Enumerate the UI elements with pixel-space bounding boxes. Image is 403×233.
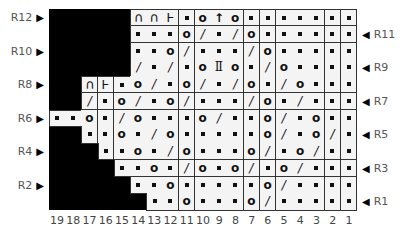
column-number-11: 11	[179, 214, 195, 227]
stitch-cell-r9-c3	[308, 59, 325, 76]
stitch-cell-r7-c4: /	[292, 93, 309, 110]
stitch-cell-r6-c4	[292, 110, 309, 127]
stitch-cell-r3-c8: o	[227, 160, 244, 177]
row-label-text: R5	[374, 128, 389, 141]
column-number-18: 18	[65, 214, 81, 227]
row-label-text: R4	[18, 145, 33, 158]
stitch-cell-r1-c12	[162, 193, 179, 210]
column-number-15: 15	[114, 214, 130, 227]
stitch-cell-r8-c13: /	[146, 76, 163, 93]
arrow-right-icon: ▶	[36, 180, 44, 191]
stitch-cell-r8-c16: Ⱶ	[98, 76, 115, 93]
stitch-cell-r4-c5	[276, 143, 293, 160]
stitch-cell-r4-c13	[146, 143, 163, 160]
column-number-8: 8	[227, 214, 243, 227]
stitch-cell-r12-c5	[276, 9, 293, 26]
stitch-cell-r6-c3: o	[308, 110, 325, 127]
row-label-text: R10	[11, 45, 33, 58]
stitch-cell-r9-c6: /	[260, 59, 277, 76]
stitch-cell-r7-c14: /	[130, 93, 147, 110]
stitch-cell-r7-c7: /	[244, 93, 261, 110]
stitch-cell-r3-c14	[130, 160, 147, 177]
stitch-cell-r7-c11: /	[179, 93, 196, 110]
stitch-cell-r12-c6	[260, 9, 277, 26]
stitch-cell-r5-c9	[211, 126, 228, 143]
stitch-cell-r7-c3	[308, 93, 325, 110]
stitch-cell-r6-c19	[49, 110, 66, 127]
stitch-cell-r10-c11: /	[179, 43, 196, 60]
stitch-cell-r4-c6: /	[260, 143, 277, 160]
stitch-cell-r8-c3	[308, 76, 325, 93]
stitch-cell-r2-c3	[308, 177, 325, 194]
column-number-7: 7	[244, 214, 260, 227]
knitting-chart-grid: ∩∩Ⱶo↑oo//oo//o//oⅡo/o∩Ⱶo/o//o/o/o/o//o/o…	[49, 9, 357, 210]
stitch-cell-r8-c5: /	[276, 76, 293, 93]
stitch-cell-r11-c9	[211, 26, 228, 43]
stitch-cell-r3-c13: o	[146, 160, 163, 177]
column-number-14: 14	[130, 214, 146, 227]
arrow-right-icon: ▶	[36, 12, 44, 23]
stitch-cell-r9-c1	[341, 59, 358, 76]
stitch-cell-r2-c8	[227, 177, 244, 194]
stitch-cell-r1-c13	[146, 193, 163, 210]
stitch-cell-r2-c12: o	[162, 177, 179, 194]
stitch-cell-r12-c3	[308, 9, 325, 26]
stitch-cell-r9-c8: o	[227, 59, 244, 76]
stitch-cell-r4-c9	[211, 143, 228, 160]
stitch-cell-r9-c12: /	[162, 59, 179, 76]
stitch-cell-r8-c11: o	[179, 76, 196, 93]
stitch-cell-r1-c9	[211, 193, 228, 210]
stitch-cell-r6-c2	[325, 110, 342, 127]
stitch-cell-r6-c7	[244, 110, 261, 127]
stitch-cell-r8-c15	[114, 76, 131, 93]
stitch-cell-r10-c10	[195, 43, 212, 60]
row-label-text: R11	[374, 28, 396, 41]
column-number-5: 5	[276, 214, 292, 227]
stitch-cell-r8-c2	[325, 76, 342, 93]
stitch-cell-r4-c4: o	[292, 143, 309, 160]
stitch-cell-r1-c8	[227, 193, 244, 210]
row-label-text: R2	[18, 179, 33, 192]
column-number-17: 17	[82, 214, 98, 227]
row-label-r9: ◀R9	[362, 59, 388, 76]
stitch-cell-r8-c12	[162, 76, 179, 93]
column-number-12: 12	[163, 214, 179, 227]
row-label-text: R7	[374, 95, 389, 108]
stitch-cell-r8-c9	[211, 76, 228, 93]
stitch-cell-r10-c9	[211, 43, 228, 60]
stitch-cell-r6-c13	[146, 110, 163, 127]
row-label-text: R12	[11, 11, 33, 24]
stitch-cell-r5-c11	[179, 126, 196, 143]
row-label-r7: ◀R7	[362, 93, 388, 110]
stitch-cell-r2-c6: o	[260, 177, 277, 194]
stitch-cell-r8-c10: /	[195, 76, 212, 93]
stitch-cell-r10-c6: o	[260, 43, 277, 60]
row-label-r10: R10▶	[0, 43, 44, 60]
row-label-r1: ◀R1	[362, 193, 388, 210]
stitch-cell-r6-c16	[98, 110, 115, 127]
stitch-cell-r4-c11: o	[179, 143, 196, 160]
arrow-left-icon: ◀	[362, 62, 370, 73]
row-label-text: R6	[18, 112, 33, 125]
stitch-cell-r10-c1	[341, 43, 358, 60]
stitch-cell-r12-c2	[325, 9, 342, 26]
arrow-right-icon: ▶	[36, 46, 44, 57]
stitch-cell-r11-c4	[292, 26, 309, 43]
column-number-2: 2	[325, 214, 341, 227]
stitch-cell-r11-c2	[325, 26, 342, 43]
stitch-cell-r1-c2	[325, 193, 342, 210]
stitch-cell-r3-c6	[260, 160, 277, 177]
row-label-text: R8	[18, 78, 33, 91]
stitch-cell-r7-c6: o	[260, 93, 277, 110]
stitch-cell-r1-c1	[341, 193, 358, 210]
stitch-cell-r3-c11: /	[179, 160, 196, 177]
stitch-cell-r5-c7	[244, 126, 261, 143]
stitch-cell-r10-c5	[276, 43, 293, 60]
stitch-cell-r6-c1	[341, 110, 358, 127]
stitch-cell-r11-c5	[276, 26, 293, 43]
stitch-cell-r9-c14: /	[130, 59, 147, 76]
stitch-cell-r12-c8: o	[227, 9, 244, 26]
stitch-cell-r2-c7	[244, 177, 261, 194]
stitch-cell-r12-c13: ∩	[146, 9, 163, 26]
stitch-cell-r12-c10: o	[195, 9, 212, 26]
